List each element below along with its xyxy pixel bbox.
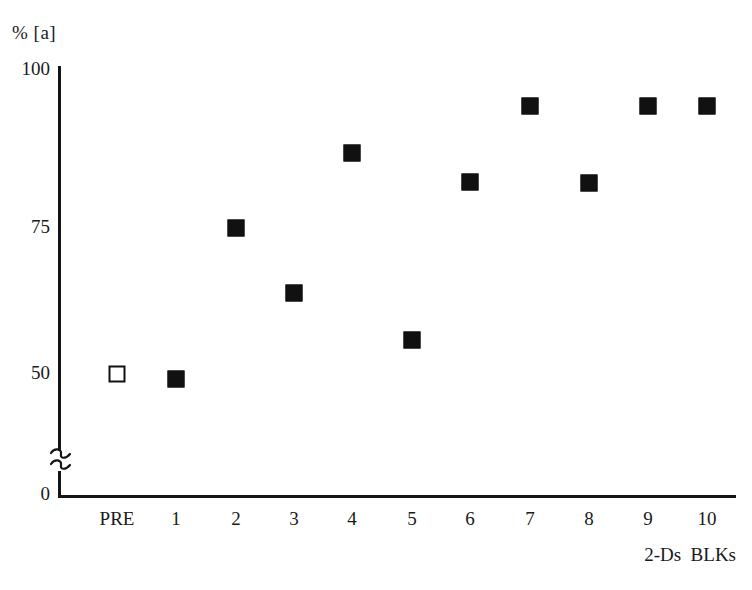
x-tick-label-2: 2 [231,508,241,530]
data-point-pre [109,366,126,383]
data-point-4 [344,145,361,162]
x-tick-label-3: 3 [289,508,299,530]
plot-area [0,0,752,590]
y-tick-label-75: 75 [4,217,50,236]
x-tick-label-10: 10 [698,508,717,530]
x-tick-label-9: 9 [643,508,653,530]
data-point-3 [286,285,303,302]
y-axis-tick-labels: 100 75 50 0 [0,0,50,590]
data-point-9 [640,98,657,115]
x-tick-label-pre: PRE [100,508,135,530]
data-point-10 [699,98,716,115]
x-tick-label-8: 8 [584,508,594,530]
data-point-2 [228,220,245,237]
chart-figure: % [a] 100 75 50 0 PRE 1 2 3 4 5 6 7 8 [0,0,752,590]
x-axis-line [58,495,736,498]
x-tick-label-4: 4 [347,508,357,530]
y-axis-line-upper [58,66,61,451]
data-point-5 [404,332,421,349]
x-tick-label-1: 1 [171,508,181,530]
axis-break-icon [47,444,75,476]
y-tick-label-50: 50 [4,363,50,382]
x-tick-label-5: 5 [407,508,417,530]
y-tick-label-0: 0 [4,484,50,503]
x-tick-label-7: 7 [525,508,535,530]
x-tick-label-6: 6 [465,508,475,530]
data-point-1 [168,371,185,388]
data-point-7 [522,98,539,115]
data-point-8 [581,175,598,192]
x-axis-title: 2-Ds BLKs [644,544,736,566]
y-tick-label-100: 100 [4,59,50,78]
data-point-6 [462,174,479,191]
